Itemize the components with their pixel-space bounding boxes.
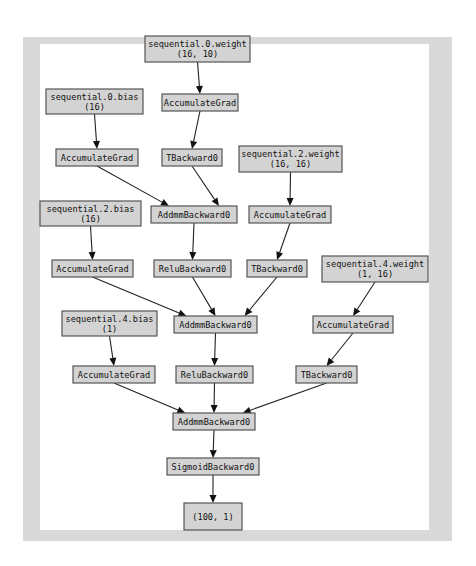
node-label: (16, 16) [270, 159, 311, 169]
edge-line [250, 383, 326, 410]
node-label: sequential.0.weight [148, 39, 246, 49]
arrowhead-icon [353, 307, 360, 316]
arrowhead-icon [189, 252, 196, 260]
arrowhead-icon [276, 251, 283, 260]
graph-node-sigmoid: SigmoidBackward0 [167, 458, 259, 475]
graph-node-relu0: ReluBackward0 [154, 260, 231, 277]
edge-line [193, 223, 194, 252]
nodes-layer: sequential.0.weight(16, 10)AccumulateGra… [40, 36, 428, 530]
edge-line [193, 277, 212, 309]
node-label: AddmmBackward0 [179, 320, 251, 330]
edge-acc_w2-to-t2 [276, 223, 290, 260]
graph-node-acc_b4: AccumulateGrad [73, 366, 155, 383]
arrowhead-icon [211, 405, 218, 413]
edge-acc_b4-to-addmm4 [114, 383, 185, 413]
arrowhead-icon [109, 358, 116, 366]
node-label: sequential.2.weight [241, 149, 339, 159]
graph-node-acc_b0: AccumulateGrad [56, 149, 138, 166]
edge-acc_b0-to-addmm0 [97, 166, 169, 206]
arrowhead-icon [287, 198, 294, 206]
node-label: AccumulateGrad [61, 153, 133, 163]
node-label: ReluBackward0 [181, 370, 248, 380]
node-label: sequential.4.weight [326, 259, 424, 269]
node-label: (100, 1) [192, 512, 233, 522]
edge-line [114, 383, 178, 410]
node-label: sequential.4.bias [66, 314, 154, 324]
edge-addmm4-to-sigmoid [210, 430, 217, 458]
graph-node-out: (100, 1) [184, 503, 242, 530]
arrowhead-icon [210, 450, 217, 458]
graph-node-w4: sequential.4.weight(1, 16) [322, 256, 428, 282]
graph-node-relu2: ReluBackward0 [176, 366, 253, 383]
edge-acc_w4-to-t4 [327, 333, 354, 366]
graph-node-w0: sequential.0.weight(16, 10) [145, 36, 250, 62]
edge-line [95, 114, 97, 141]
graph-node-t0: TBackward0 [162, 149, 222, 166]
edge-b2-to-acc_b2 [89, 226, 96, 260]
node-label: AccumulateGrad [254, 210, 326, 220]
edge-line [110, 336, 113, 358]
node-label: SigmoidBackward0 [172, 462, 255, 472]
graph-node-acc_b2: AccumulateGrad [52, 260, 133, 277]
node-label: sequential.0.bias [51, 92, 139, 102]
edge-w2-to-acc_w2 [287, 172, 294, 206]
arrowhead-icon [196, 86, 203, 94]
node-label: TBackward0 [166, 153, 218, 163]
edge-acc_w0-to-t0 [190, 111, 200, 149]
edge-w0-to-acc_w0 [196, 62, 203, 94]
node-label: sequential.2.bias [47, 204, 135, 214]
graph-node-addmm0: AddmmBackward0 [151, 206, 237, 223]
node-label: TBackward0 [251, 264, 303, 274]
graph-node-addmm2: AddmmBackward0 [174, 316, 257, 333]
edge-line [198, 62, 200, 86]
edge-line [332, 333, 353, 360]
edge-addmm0-to-relu0 [189, 223, 196, 260]
arrowhead-icon [190, 140, 197, 149]
node-label: AccumulateGrad [78, 370, 150, 380]
edge-b4-to-acc_b4 [109, 336, 116, 366]
graph-node-b2: sequential.2.bias(16) [40, 201, 141, 226]
arrowhead-icon [160, 199, 169, 206]
arrowhead-icon [210, 495, 217, 503]
node-label: (1) [102, 324, 118, 334]
graph-node-w2: sequential.2.weight(16, 16) [239, 146, 342, 172]
graph-node-addmm4: AddmmBackward0 [173, 413, 255, 430]
edge-addmm2-to-relu2 [211, 333, 218, 366]
edge-sigmoid-to-out [210, 475, 217, 503]
edge-line [192, 166, 215, 199]
node-label: AddmmBackward0 [158, 210, 230, 220]
node-label: AccumulateGrad [164, 98, 236, 108]
edge-relu2-to-addmm4 [211, 383, 218, 413]
edge-t4-to-addmm4 [243, 383, 327, 414]
graph-node-acc_w2: AccumulateGrad [249, 206, 331, 223]
arrowhead-icon [208, 307, 215, 316]
edge-line [357, 282, 375, 309]
arrowhead-icon [211, 358, 218, 366]
graph-node-b4: sequential.4.bias(1) [62, 311, 157, 336]
node-label: TBackward0 [301, 370, 353, 380]
edge-acc_b2-to-addmm2 [93, 277, 187, 316]
edge-line [93, 277, 180, 313]
edge-line [250, 277, 277, 310]
edge-line [280, 223, 290, 252]
edge-t2-to-addmm2 [245, 277, 277, 316]
graph-node-t4: TBackward0 [296, 366, 357, 383]
node-label: (16, 10) [177, 49, 218, 59]
edge-relu0-to-addmm2 [193, 277, 216, 316]
edge-line [213, 430, 214, 450]
node-label: (16) [84, 102, 105, 112]
arrowhead-icon [93, 141, 100, 149]
node-label: ReluBackward0 [159, 264, 226, 274]
node-label: AddmmBackward0 [178, 417, 250, 427]
graph-node-acc_w0: AccumulateGrad [162, 94, 238, 111]
graph-node-b0: sequential.0.bias(16) [46, 89, 143, 114]
edge-line [194, 111, 200, 141]
arrowhead-icon [89, 252, 96, 260]
computation-graph: sequential.0.weight(16, 10)AccumulateGra… [0, 0, 476, 566]
edge-b0-to-acc_b0 [93, 114, 100, 149]
edge-t0-to-addmm0 [192, 166, 219, 206]
arrowhead-icon [212, 197, 219, 206]
graph-node-t2: TBackward0 [247, 260, 307, 277]
graph-node-acc_w4: AccumulateGrad [313, 316, 393, 333]
node-label: (1, 16) [357, 269, 393, 279]
